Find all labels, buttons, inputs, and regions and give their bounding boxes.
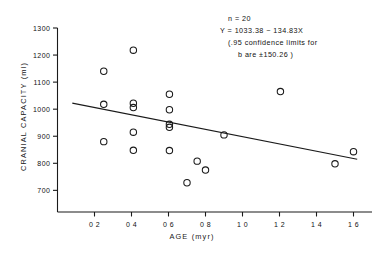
data-point-marker: [184, 180, 190, 186]
x-axis-tick-labels: 0 20 40 60 81 01 21 41 6: [89, 221, 359, 228]
x-tick-label: 1 6: [348, 221, 359, 228]
regression-fit-line: [72, 103, 357, 159]
data-point-marker: [130, 129, 136, 135]
annotation-sample-size: n = 20: [228, 14, 251, 23]
data-point-marker: [166, 147, 172, 153]
x-tick-label: 0 8: [200, 221, 211, 228]
y-axis-tick-labels: 7008009001000110012001300: [33, 25, 51, 194]
x-tick-label: 0 6: [163, 221, 174, 228]
data-point-marker: [101, 68, 107, 74]
y-tick-label: 700: [37, 187, 50, 194]
data-point-marker: [332, 161, 338, 167]
figure-scatter-plot: 7008009001000110012001300 0 20 40 60 81 …: [0, 0, 384, 254]
data-point-marker: [130, 147, 136, 153]
annotation-confidence-line2: b are ±150.26 ): [238, 50, 293, 59]
x-tick-label: 1 2: [274, 221, 285, 228]
annotation-confidence-line1: (.95 confidence limits for: [228, 38, 318, 47]
y-axis-title: CRANIAL CAPACITY (ml): [19, 42, 28, 192]
y-tick-label: 1300: [33, 25, 51, 32]
data-point-marker: [101, 138, 107, 144]
annotation-regression-equation: Y = 1033.38 − 134.83X: [220, 26, 303, 35]
x-axis-title: AGE (myr): [117, 232, 267, 241]
plot-canvas: 7008009001000110012001300 0 20 40 60 81 …: [0, 0, 384, 254]
x-axis-ticks: [95, 212, 354, 217]
data-point-marker: [101, 101, 107, 107]
data-point-marker: [130, 47, 136, 53]
data-point-marker: [202, 167, 208, 173]
regression-line: [72, 103, 357, 159]
data-point-marker: [350, 148, 356, 154]
y-tick-label: 1200: [33, 52, 51, 59]
data-point-marker: [130, 104, 136, 110]
y-tick-label: 1100: [33, 79, 50, 86]
x-tick-label: 0 4: [126, 221, 137, 228]
x-tick-label: 1 0: [237, 221, 248, 228]
y-tick-label: 1000: [33, 106, 51, 113]
x-tick-label: 1 4: [311, 221, 322, 228]
x-tick-label: 0 2: [89, 221, 100, 228]
data-point-marker: [277, 88, 283, 94]
axes-frame: [58, 28, 373, 212]
y-axis-ticks: [53, 28, 58, 190]
data-point-marker: [194, 158, 200, 164]
y-tick-label: 800: [37, 160, 50, 167]
data-point-marker: [166, 107, 172, 113]
data-point-marker: [166, 91, 172, 97]
y-tick-label: 900: [37, 133, 50, 140]
